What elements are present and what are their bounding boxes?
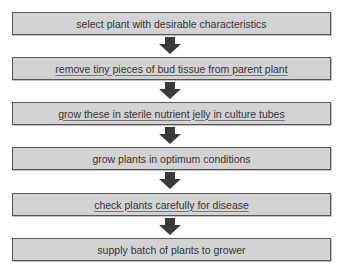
step-6-supply-grower: supply batch of plants to grower — [12, 238, 331, 261]
step-label: select plant with desirable characterist… — [76, 18, 266, 30]
down-arrow-icon — [159, 127, 181, 144]
step-4-optimum-conditions: grow plants in optimum conditions — [12, 147, 331, 170]
down-arrow-icon — [159, 37, 181, 54]
step-2-remove-bud-tissue: remove tiny pieces of bud tissue from pa… — [12, 57, 331, 80]
down-arrow-icon — [159, 172, 181, 189]
step-label: supply batch of plants to grower — [97, 244, 245, 256]
step-label: grow plants in optimum conditions — [92, 153, 250, 165]
step-label: remove tiny pieces of bud tissue from pa… — [55, 63, 287, 75]
step-3-grow-in-jelly: grow these in sterile nutrient jelly in … — [12, 102, 331, 125]
down-arrow-icon — [159, 218, 181, 235]
step-label: grow these in sterile nutrient jelly in … — [58, 108, 284, 120]
step-1-select-plant: select plant with desirable characterist… — [12, 12, 331, 35]
step-label: check plants carefully for disease — [94, 199, 249, 211]
step-5-check-disease: check plants carefully for disease — [12, 193, 331, 216]
down-arrow-icon — [159, 82, 181, 99]
